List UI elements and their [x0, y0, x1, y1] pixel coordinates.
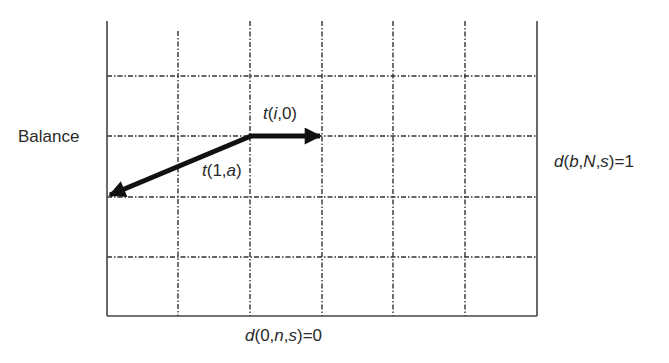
- eq-n: n: [274, 326, 283, 345]
- eq-N: N: [583, 152, 595, 171]
- grid-diagram: [0, 0, 669, 363]
- arrow-label-t-1-a: t(1,a): [202, 162, 242, 179]
- eq-tail: )=1: [609, 152, 634, 171]
- arrow-label-t-i-0: t(i,0): [263, 105, 297, 122]
- eq-b: b: [569, 152, 578, 171]
- label-open: (1,: [207, 161, 227, 180]
- eq-open: (0,: [254, 326, 274, 345]
- eq-s: s: [289, 326, 298, 345]
- bottom-equation-label: d(0,n,s)=0: [245, 327, 322, 344]
- right-equation-label: d(b,N,s)=1: [554, 153, 634, 170]
- label-close: ): [236, 161, 242, 180]
- eq-tail: )=0: [297, 326, 322, 345]
- label-a: a: [227, 161, 236, 180]
- eq-s: s: [600, 152, 609, 171]
- balance-label: Balance: [18, 128, 79, 145]
- label-rest: ,0): [277, 104, 297, 123]
